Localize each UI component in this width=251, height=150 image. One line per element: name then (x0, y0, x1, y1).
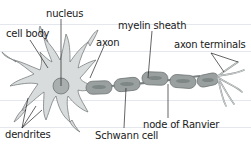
label-nucleus: nucleus (46, 8, 83, 19)
neuron-diagram: nucleus cell body axon myelin sheath axo… (0, 0, 251, 150)
label-dendrites: dendrites (5, 129, 51, 140)
label-axon: axon (96, 37, 119, 48)
label-node-of-ranvier: node of Ranvier (143, 119, 219, 130)
myelin-sheath-shape (86, 72, 220, 95)
label-cell-body: cell body (6, 28, 49, 39)
label-schwann-cell: Schwann cell (95, 130, 158, 141)
cell-body-shape (2, 26, 98, 132)
label-axon-terminals: axon terminals (174, 39, 246, 50)
label-myelin-sheath: myelin sheath (118, 20, 186, 31)
